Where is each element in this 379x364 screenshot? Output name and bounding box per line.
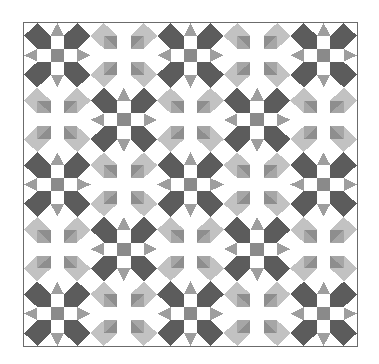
star-block	[157, 152, 224, 217]
cross-block	[224, 152, 291, 217]
cross-block	[91, 152, 158, 217]
star-block	[24, 281, 91, 346]
cross-block	[224, 281, 291, 346]
star-block	[91, 217, 158, 282]
star-block	[224, 88, 291, 153]
star-block	[290, 23, 357, 88]
cross-block	[157, 88, 224, 153]
star-block	[157, 23, 224, 88]
cross-block	[24, 88, 91, 153]
star-block	[290, 152, 357, 217]
quilt-panel: Star quilt pattern	[23, 22, 358, 347]
cross-block	[290, 88, 357, 153]
cross-block	[157, 217, 224, 282]
star-block	[224, 217, 291, 282]
cross-block	[91, 281, 158, 346]
star-block	[24, 23, 91, 88]
star-block	[91, 88, 158, 153]
cross-block	[224, 23, 291, 88]
quilt-pattern-image	[24, 23, 357, 346]
star-block	[157, 281, 224, 346]
cross-block	[24, 217, 91, 282]
cross-block	[91, 23, 158, 88]
star-block	[24, 152, 91, 217]
star-block	[290, 281, 357, 346]
cross-block	[290, 217, 357, 282]
